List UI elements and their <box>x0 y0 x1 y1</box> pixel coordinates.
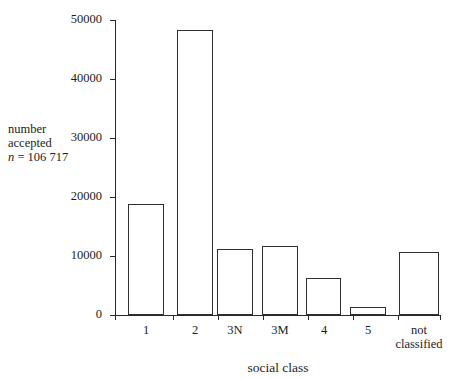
x-tick-label-class-2: 2 <box>192 323 198 337</box>
sample-size-annotation: n = 106 717 <box>8 150 104 164</box>
x-axis-title: social class <box>115 360 441 376</box>
x-tick-boundary-1 <box>173 315 174 320</box>
x-tick-label-class-4: 4 <box>321 323 327 337</box>
y-axis-line <box>115 20 116 316</box>
sample-size-value: = 106 717 <box>14 150 68 164</box>
y-tick-label-30000: 30000 <box>71 130 102 145</box>
y-tick-label-40000: 40000 <box>71 71 102 86</box>
x-tick-boundary-4 <box>308 315 309 320</box>
x-tick-label-class-3M-line1: 3M <box>271 323 288 337</box>
y-tick-label-20000: 20000 <box>71 189 102 204</box>
y-tick-label-0: 0 <box>96 307 102 322</box>
bar-class-5 <box>350 307 386 315</box>
x-tick-label-class-3M: 3M <box>271 323 288 337</box>
x-tick-label-class-5-line1: 5 <box>365 323 371 337</box>
plot-area: 0 10000 20000 30000 40000 50000 <box>115 20 440 315</box>
y-tick-40000: 40000 <box>110 79 116 80</box>
chart-figure: number accepted n = 106 717 0 10000 2000… <box>0 0 455 379</box>
x-tick-label-not-classified: not classified <box>395 323 442 351</box>
x-tick-label-class-3N-line1: 3N <box>227 323 242 337</box>
y-tick-20000: 20000 <box>110 197 116 198</box>
y-tick-label-10000: 10000 <box>71 248 102 263</box>
bar-class-2 <box>177 30 213 315</box>
x-tick-label-class-4-line1: 4 <box>321 323 327 337</box>
bar-class-3M <box>262 246 298 315</box>
x-tick-label-not-classified-line1: not <box>411 323 427 337</box>
bar-class-4 <box>306 278 341 315</box>
x-tick-boundary-5 <box>353 315 354 320</box>
x-tick-label-class-1: 1 <box>143 323 149 337</box>
y-tick-10000: 10000 <box>110 256 116 257</box>
x-tick-boundary-0 <box>115 315 116 320</box>
x-tick-label-class-2-line1: 2 <box>192 323 198 337</box>
x-tick-label-not-classified-line2: classified <box>395 337 442 351</box>
x-tick-label-class-3N: 3N <box>227 323 242 337</box>
x-tick-boundary-6 <box>398 315 399 320</box>
x-tick-label-class-5: 5 <box>365 323 371 337</box>
x-tick-boundary-7 <box>440 315 441 320</box>
x-tick-boundary-3 <box>263 315 264 320</box>
bar-class-not-classified <box>399 252 439 315</box>
y-tick-50000: 50000 <box>110 20 116 21</box>
x-axis-line <box>115 315 441 316</box>
y-tick-30000: 30000 <box>110 138 116 139</box>
y-tick-label-50000: 50000 <box>71 12 102 27</box>
x-tick-label-class-1-line1: 1 <box>143 323 149 337</box>
bar-class-3N <box>217 249 253 315</box>
x-tick-boundary-2 <box>218 315 219 320</box>
bar-class-1 <box>128 204 164 315</box>
